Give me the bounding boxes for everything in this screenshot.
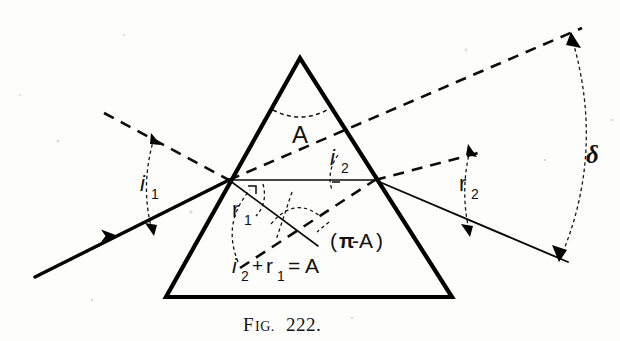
r2-arc-arrowhead-bottom-icon [461, 224, 473, 237]
label-r2: r 2 [459, 171, 479, 202]
label-relation-r: r [266, 254, 273, 277]
label-r2-base: r [459, 171, 466, 196]
label-relation-i: i [232, 254, 238, 277]
i1-arc-arrowhead-bottom-icon [145, 223, 157, 236]
label-supplement-close: ) [376, 229, 383, 252]
label-deviation-delta: δ [586, 141, 599, 168]
figure-caption: F IG. 222. [243, 314, 321, 335]
label-relation-r-sub: 1 [277, 268, 285, 284]
r1-corner-tick [248, 186, 256, 194]
upper-left-dashed-normal [104, 113, 229, 180]
label-apex-angle: A [292, 121, 308, 148]
label-i1-subscript: 1 [151, 186, 159, 202]
deviation-angle-arc-icon [563, 42, 586, 252]
figure-container: A i 1 r 1 i 2 r 2 δ ( π -A ) [0, 0, 620, 341]
label-relation-i-sub: 2 [241, 268, 249, 284]
r2-arc-arrowhead-top-icon [466, 144, 477, 157]
label-relation-equation: i 2 + r 1 = A [232, 254, 319, 284]
delta-arc-arrowhead-bottom-icon [552, 245, 567, 262]
caption-prefix: F [243, 314, 254, 335]
label-i2-subscript: 2 [341, 160, 349, 176]
label-i1-base: i [140, 171, 146, 196]
label-supplement-minus-a: -A [352, 229, 373, 252]
incident-ray-continuation-stub [229, 180, 318, 246]
incident-ray [35, 180, 229, 277]
label-relation-plus: + [252, 255, 263, 276]
prism-refraction-diagram: A i 1 r 1 i 2 r 2 δ ( π -A ) [0, 0, 620, 341]
label-r1-base: r [232, 197, 239, 222]
apex-angle-arc-icon [273, 110, 327, 117]
label-i1: i 1 [140, 171, 159, 202]
caption-smallcaps: IG. [255, 319, 275, 334]
undeviated-ray-dashed [229, 28, 582, 180]
label-i2: i 2 [330, 145, 349, 176]
label-i2-base: i [330, 145, 336, 170]
label-r2-subscript: 2 [471, 186, 479, 202]
label-supplement-angle: ( π -A ) [330, 229, 383, 252]
supplement-label-leader [317, 222, 329, 232]
i1-arc-arrowhead-top-icon [150, 133, 161, 145]
caption-number: 222. [286, 314, 321, 335]
label-r1: r 1 [232, 197, 252, 228]
label-relation-equals: = A [288, 254, 319, 277]
label-r1-subscript: 1 [244, 212, 252, 228]
label-supplement-open: ( [330, 229, 337, 252]
